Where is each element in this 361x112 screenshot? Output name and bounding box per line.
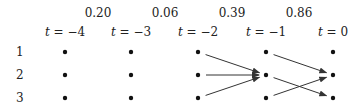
state-node bbox=[129, 96, 133, 100]
state-node bbox=[196, 73, 200, 77]
state-node bbox=[196, 50, 200, 54]
state-node bbox=[331, 96, 335, 100]
transition-arrow bbox=[206, 55, 260, 73]
state-node bbox=[129, 50, 133, 54]
transition-arrow bbox=[206, 77, 260, 95]
state-node bbox=[264, 96, 268, 100]
state-node bbox=[331, 50, 335, 54]
state-node bbox=[196, 96, 200, 100]
transition-arrow bbox=[274, 55, 327, 73]
state-node bbox=[331, 73, 335, 77]
state-node bbox=[63, 73, 67, 77]
trellis-graph bbox=[0, 0, 361, 112]
state-node bbox=[129, 73, 133, 77]
state-node bbox=[63, 96, 67, 100]
nodes bbox=[63, 50, 335, 100]
state-node bbox=[264, 50, 268, 54]
state-node bbox=[63, 50, 67, 54]
state-node bbox=[264, 73, 268, 77]
